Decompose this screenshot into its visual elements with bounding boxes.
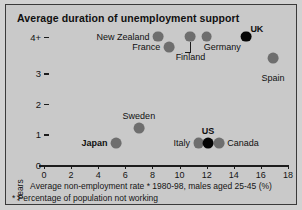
y-axis-tick-label-wrapper: 3 [6,68,41,79]
x-axis-tick-label: 12 [202,170,212,180]
y-axis-title-wrapper: Years [10,93,50,113]
data-point-us[interactable] [203,138,214,149]
x-axis-line [39,165,288,167]
x-axis-tick [288,165,289,169]
y-axis-tick-label: 3 [36,68,41,79]
y-axis-tick [44,134,49,136]
y-axis-tick-label: 4+ [30,31,41,42]
data-label-france: France [132,42,160,52]
plot-area: 024681012141618 01234+ Years New Zealand… [6,5,298,206]
data-label-finland: Finland [176,52,206,62]
x-axis-tick-label: 14 [229,170,239,180]
y-axis-tick-label: 1 [36,129,41,140]
x-axis-tick-label: 0 [41,170,46,180]
data-label-new-zealand: New Zealand [96,32,149,42]
y-axis-tick-label: 0 [36,160,41,171]
data-label-uk: UK [250,24,263,34]
y-axis-tick-label-wrapper: 0 [6,160,41,171]
y-axis-tick [44,37,49,39]
data-label-spain: Spain [262,73,285,83]
data-point-spain[interactable] [268,53,279,64]
x-axis-tick-label: 10 [175,170,185,180]
data-label-canada: Canada [227,138,259,148]
data-label-japan: Japan [81,138,107,148]
x-axis-tick-label: 8 [150,170,155,180]
chart-panel: Average duration of unemployment support… [5,4,297,205]
x-axis-tick-label: 4 [96,170,101,180]
y-axis-tick [44,73,49,75]
x-axis-tick [207,165,208,169]
data-point-france[interactable] [163,42,174,53]
chart-footnote: * Percentage of population not working [12,193,158,203]
data-point-germany[interactable] [201,31,212,42]
x-axis-tick [180,165,181,169]
data-point-sweden[interactable] [133,123,144,134]
y-axis-tick [44,165,49,167]
y-axis-tick-label-wrapper: 1 [6,129,41,140]
x-axis-tick-label: 2 [69,170,74,180]
x-axis-tick [71,165,72,169]
data-point-japan[interactable] [110,138,121,149]
data-label-sweden: Sweden [123,111,156,121]
x-axis-tick-label: 6 [123,170,128,180]
leader-line-finland-vertical [190,42,191,52]
x-axis-tick [152,165,153,169]
data-label-italy: Italy [174,138,191,148]
y-axis-tick-label-wrapper: 4+ [6,31,41,42]
data-label-germany: Germany [204,42,241,52]
data-point-finland[interactable] [185,31,196,42]
x-axis-tick [125,165,126,169]
x-axis-tick-label: 16 [256,170,266,180]
data-point-canada[interactable] [213,138,224,149]
x-axis-tick [98,165,99,169]
x-axis-title: Average non-employment rate * 1980-98, m… [6,181,296,191]
data-point-new-zealand[interactable] [152,31,163,42]
x-axis-tick-label: 18 [283,170,293,180]
chart-screenshot: Average duration of unemployment support… [0,0,302,210]
x-axis-tick [261,165,262,169]
x-axis-tick [234,165,235,169]
leader-line-finland-horizontal [185,52,191,53]
data-label-us: US [202,126,215,136]
